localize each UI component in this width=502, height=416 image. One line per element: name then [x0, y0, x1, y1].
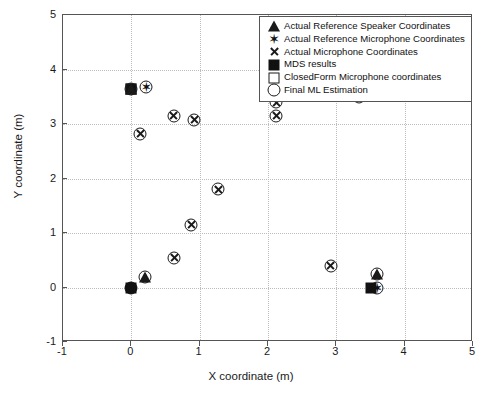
- x-tick-label: 2: [264, 345, 270, 357]
- triangle-marker-icon: [125, 83, 137, 94]
- x-marker-icon: [270, 109, 283, 122]
- star-marker-icon: ✶: [140, 81, 153, 94]
- star-icon: ✶: [264, 33, 284, 46]
- y-tick-label: 3: [34, 117, 56, 129]
- legend-item-label: Actual Reference Microphone Coordinates: [284, 33, 465, 46]
- y-tick-mark: [62, 123, 67, 124]
- x-tick-label: 5: [469, 345, 475, 357]
- x-tick-label: 0: [127, 345, 133, 357]
- x-tick-label: -1: [57, 345, 67, 357]
- legend-item-label: Actual Reference Speaker Coordinates: [284, 20, 450, 33]
- legend-item-label: Final ML Estimation: [284, 84, 368, 97]
- x-marker-icon: [168, 251, 181, 264]
- y-tick-mark: [62, 341, 67, 342]
- x-marker-icon: [167, 109, 180, 122]
- y-tick-label: -1: [34, 335, 56, 347]
- legend-item: Actual Reference Speaker Coordinates: [264, 20, 467, 33]
- legend-item: ClosedForm Microphone coordinates: [264, 71, 467, 84]
- x-axis-label: X coordinate (m): [0, 370, 502, 382]
- gridline-horizontal: [63, 233, 471, 234]
- y-tick-mark: [62, 287, 67, 288]
- x-icon: [264, 46, 284, 59]
- gridline-vertical: [200, 15, 201, 340]
- dot-marker-icon: [125, 282, 137, 294]
- y-axis-label: Y coordinate (m): [12, 76, 24, 236]
- triangle-marker-icon: [371, 268, 383, 279]
- x-tick-label: 1: [196, 345, 202, 357]
- y-tick-label: 2: [34, 172, 56, 184]
- legend-item-label: Actual Microphone Coordinates: [284, 46, 418, 59]
- y-tick-label: 0: [34, 281, 56, 293]
- legend-item-label: MDS results: [284, 58, 336, 71]
- y-tick-mark: [62, 232, 67, 233]
- legend-item: Actual Microphone Coordinates: [264, 46, 467, 59]
- scatter-plot-figure: ✶✶ -1012345 -1012345 X coordinate (m) Y …: [0, 0, 502, 416]
- x-marker-icon: [185, 218, 198, 231]
- legend: Actual Reference Speaker Coordinates✶Act…: [259, 16, 472, 102]
- gridline-horizontal: [63, 124, 471, 125]
- x-tick-label: 3: [332, 345, 338, 357]
- triangle-marker-icon: [139, 271, 151, 282]
- y-tick-label: 4: [34, 63, 56, 75]
- x-marker-icon: [134, 127, 147, 140]
- x-marker-icon: [188, 113, 201, 126]
- x-marker-icon: [212, 183, 225, 196]
- legend-item: ✶Actual Reference Microphone Coordinates: [264, 33, 467, 46]
- y-tick-label: 5: [34, 8, 56, 20]
- x-tick-label: 4: [401, 345, 407, 357]
- open-circle-icon: [264, 84, 284, 97]
- y-tick-mark: [62, 178, 67, 179]
- open-square-icon: [264, 71, 284, 84]
- legend-item-label: ClosedForm Microphone coordinates: [284, 71, 441, 84]
- gridline-horizontal: [63, 179, 471, 180]
- star-marker-icon: ✶: [371, 281, 384, 294]
- legend-item: MDS results: [264, 58, 467, 71]
- y-tick-mark: [62, 69, 67, 70]
- x-marker-icon: [324, 259, 337, 272]
- y-tick-mark: [62, 14, 67, 15]
- y-tick-label: 1: [34, 226, 56, 238]
- legend-item: Final ML Estimation: [264, 84, 467, 97]
- filled-square-icon: [264, 58, 284, 71]
